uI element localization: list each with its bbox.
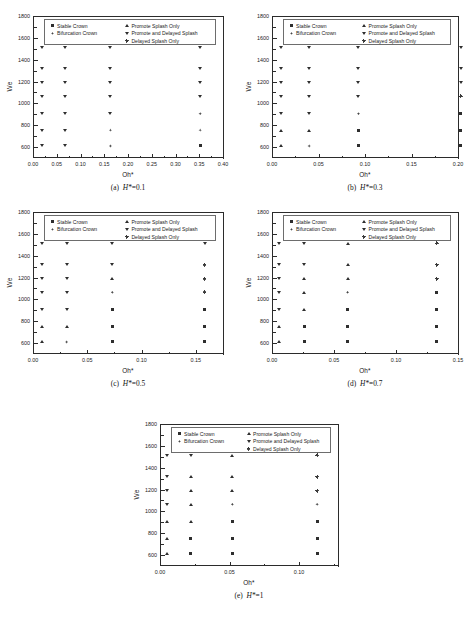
data-point-promote-delayed-splash-marker	[164, 488, 170, 494]
bifurcation-crown-marker	[175, 440, 184, 443]
y-tick-label: 1000	[137, 508, 157, 514]
y-tick-label: 600	[137, 552, 157, 558]
data-point-stable-crown-marker	[229, 535, 235, 541]
legend-column-right: Promote Splash OnlyPromote and Delayed S…	[244, 430, 319, 453]
x-tick-label: 0.00	[148, 569, 172, 575]
data-point-promote-splash-marker	[188, 501, 194, 507]
y-tick-label: 1600	[137, 443, 157, 449]
y-tick	[161, 533, 165, 534]
y-tick-label: 1200	[137, 487, 157, 493]
x-tick	[230, 562, 231, 566]
panel-caption-e: (e) H*=1	[149, 591, 349, 600]
data-point-promote-delayed-splash-marker	[164, 474, 170, 480]
y-axis-title: We	[133, 480, 140, 510]
y-tick	[161, 511, 165, 512]
y-tick	[161, 424, 165, 425]
x-tick-label: 0.10	[287, 569, 311, 575]
y-tick-label: 800	[137, 530, 157, 536]
data-point-promote-delayed-splash-marker	[188, 452, 194, 458]
legend-item: Bifurcation Crown	[175, 438, 224, 446]
data-point-promote-splash-marker	[164, 551, 170, 557]
data-point-stable-crown-marker	[314, 551, 320, 557]
promote-delayed-splash-marker	[244, 440, 253, 443]
legend-item: Promote and Delayed Splash	[244, 438, 319, 446]
data-point-promote-splash-marker	[229, 474, 235, 480]
x-tick-minor	[195, 564, 196, 567]
data-point-stable-crown-marker	[188, 551, 194, 557]
data-point-stable-crown-marker	[314, 535, 320, 541]
data-point-promote-splash-marker	[164, 519, 170, 525]
y-tick-label: 1400	[137, 465, 157, 471]
x-tick-minor	[264, 564, 265, 567]
caption-index: (e)	[235, 591, 243, 600]
legend-label: Stable Crown	[184, 431, 215, 437]
x-tick	[299, 562, 300, 566]
legend-label: Bifurcation Crown	[184, 438, 224, 444]
data-point-promote-delayed-splash-marker	[164, 501, 170, 507]
legend-column-left: Stable CrownBifurcation Crown	[175, 430, 224, 445]
stable-crown-marker	[175, 432, 184, 435]
legend-item: Promote Splash Only	[244, 430, 319, 438]
legend-label: Promote Splash Only	[253, 431, 301, 437]
data-point-promote-splash-marker	[229, 488, 235, 494]
data-point-stable-crown-marker	[314, 519, 320, 525]
data-point-delayed-splash-marker	[314, 452, 320, 458]
panel-e: 0.000.050.1060080010001200140016001800Oh…	[0, 0, 473, 619]
data-point-stable-crown-marker	[229, 519, 235, 525]
x-tick-label: 0.05	[218, 569, 242, 575]
y-tick	[161, 468, 165, 469]
y-tick-minor	[161, 544, 164, 545]
caption-value: =1	[256, 591, 264, 600]
data-point-bifurcation-crown-marker	[229, 501, 235, 507]
x-axis-title: Oh*	[224, 579, 274, 586]
data-point-promote-splash-marker	[188, 519, 194, 525]
data-point-promote-splash-marker	[229, 452, 235, 458]
data-point-bifurcation-crown-marker	[314, 501, 320, 507]
data-point-stable-crown-marker	[229, 551, 235, 557]
delayed-splash-marker	[244, 447, 253, 451]
legend-label: Delayed Splash Only	[253, 446, 301, 452]
y-tick-minor	[161, 435, 164, 436]
promote-splash-marker	[244, 432, 253, 435]
legend-item: Delayed Splash Only	[244, 445, 319, 453]
data-point-promote-delayed-splash-marker	[164, 452, 170, 458]
legend-label: Promote and Delayed Splash	[253, 438, 319, 444]
data-point-stable-crown-marker	[188, 535, 194, 541]
legend: Stable CrownBifurcation CrownPromote Spl…	[171, 427, 331, 453]
data-point-delayed-splash-marker	[314, 488, 320, 494]
data-point-promote-splash-marker	[188, 488, 194, 494]
x-tick-minor	[334, 564, 335, 567]
y-tick-label: 1800	[137, 421, 157, 427]
plot-frame-right	[338, 424, 339, 567]
x-tick	[160, 562, 161, 566]
legend-item: Stable Crown	[175, 430, 224, 438]
data-point-promote-splash-marker	[164, 535, 170, 541]
y-tick	[161, 446, 165, 447]
data-point-promote-splash-marker	[188, 474, 194, 480]
data-point-delayed-splash-marker	[314, 474, 320, 480]
plot-frame-top	[160, 424, 339, 425]
